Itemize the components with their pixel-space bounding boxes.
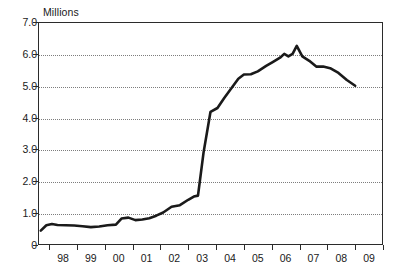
y-axis-tick-mark <box>33 86 38 87</box>
x-axis-tick-mark <box>383 245 384 250</box>
gridline <box>39 214 382 215</box>
y-axis-tick-mark <box>33 54 38 55</box>
gridline <box>39 150 382 151</box>
x-axis-tick-mark <box>160 245 161 250</box>
x-axis-tick-mark <box>77 245 78 250</box>
y-axis-tick-mark <box>33 213 38 214</box>
y-axis-tick-mark <box>33 118 38 119</box>
x-axis-tick-mark <box>244 245 245 250</box>
x-axis-tick-mark <box>355 245 356 250</box>
x-axis-tick-mark <box>327 245 328 250</box>
chart-figure: Millions 01.02.03.04.05.06.07.0 98990001… <box>0 0 399 274</box>
y-axis-tick-mark <box>33 22 38 23</box>
y-axis-tick-mark <box>33 181 38 182</box>
gridline <box>39 119 382 120</box>
y-axis-tick-mark <box>33 149 38 150</box>
x-axis-tick-mark <box>49 245 50 250</box>
x-axis-tick-label: 09 <box>352 252 386 264</box>
x-axis-tick-mark <box>216 245 217 250</box>
plot-area <box>38 22 383 245</box>
x-axis-tick-mark <box>105 245 106 250</box>
y-axis-unit-label: Millions <box>43 6 79 18</box>
x-axis-tick-mark <box>188 245 189 250</box>
gridline <box>39 55 382 56</box>
gridline <box>39 87 382 88</box>
x-axis-tick-mark <box>272 245 273 250</box>
x-axis-tick-mark <box>133 245 134 250</box>
x-axis-tick-mark <box>300 245 301 250</box>
gridline <box>39 182 382 183</box>
y-axis-tick-mark <box>33 245 38 246</box>
